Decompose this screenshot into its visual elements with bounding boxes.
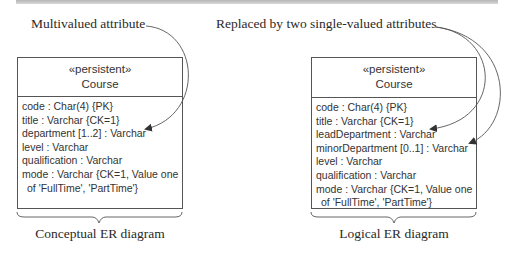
brace-conceptual	[17, 212, 182, 223]
diagram-connectors	[0, 0, 512, 254]
curved-arrow-lead-department	[431, 27, 485, 129]
curved-arrow-left	[146, 26, 188, 129]
brace-logical	[311, 212, 476, 223]
conceptual-caption: Conceptual ER diagram	[17, 226, 183, 242]
logical-caption: Logical ER diagram	[311, 226, 477, 242]
